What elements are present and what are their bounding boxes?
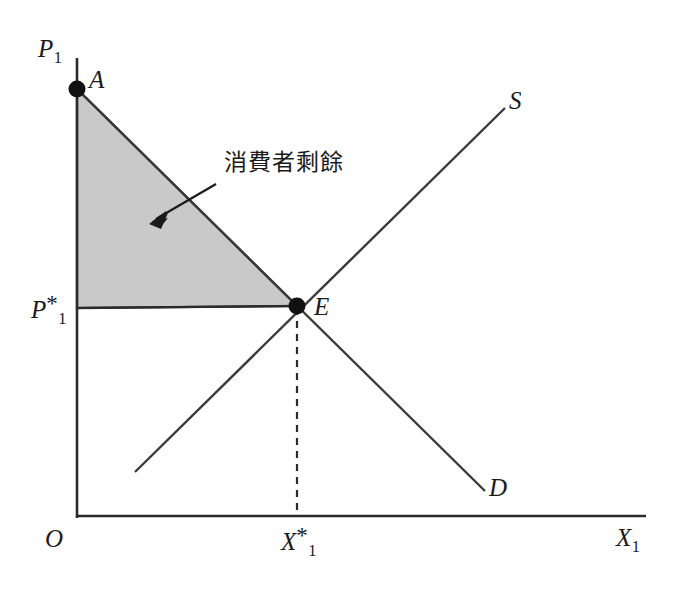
figure-canvas: P1 X1 P*1 X*1 O A E S D 消費者剩餘 (0, 0, 679, 594)
consumer-surplus-annotation-label: 消費者剩餘 (224, 143, 344, 177)
point-e-label: E (314, 294, 329, 319)
quantity-axis-label: X1 (616, 525, 640, 555)
equilibrium-price-tick-label: P*1 (31, 292, 67, 327)
origin-label: O (45, 526, 63, 551)
point-a-label: A (89, 67, 104, 92)
demand-curve-label: D (489, 475, 507, 500)
supply-curve-label: S (509, 88, 522, 113)
point-a-marker (69, 81, 86, 98)
equilibrium-quantity-tick-label: X*1 (281, 524, 317, 559)
price-axis-label: P1 (38, 36, 62, 66)
point-e-marker (289, 298, 306, 315)
